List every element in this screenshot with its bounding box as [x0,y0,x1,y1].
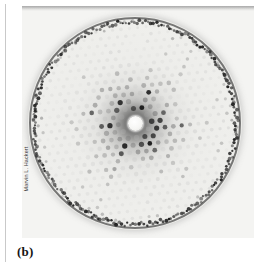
image-credit: Marvin L. Hackert [23,129,29,209]
diffraction-disc [28,16,242,230]
plate-top-shadow [22,6,254,11]
left-margin-rule [5,4,6,262]
beam-stop [128,116,143,131]
figure-page: Marvin L. Hackert (b) [0,0,254,269]
diffraction-photograph [22,6,254,238]
panel-label: (b) [17,244,34,260]
